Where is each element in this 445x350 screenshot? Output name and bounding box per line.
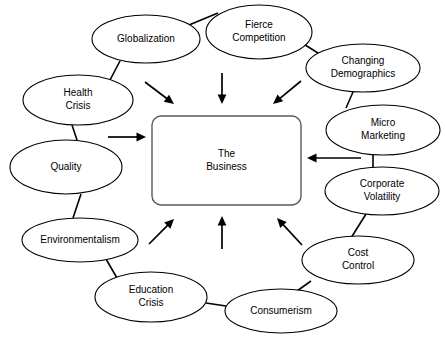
flow-arrow [218,216,227,249]
connector-line [351,214,366,238]
force-node-label: Education [129,284,173,295]
arrow-head-icon [164,95,174,104]
force-node-label: Environmentalism [40,234,119,245]
force-node-globalization[interactable]: Globalization [92,15,200,63]
connector-line [106,259,117,278]
force-node-label: Consumerism [250,305,312,316]
arrow-head-icon [218,95,227,105]
flow-arrow [145,82,174,104]
force-node-label: Corporate [360,178,405,189]
arrow-head-icon [307,154,317,163]
arrow-shaft [145,82,168,100]
force-node-changing-demographics[interactable]: ChangingDemographics [306,44,420,92]
flow-arrow [218,73,227,104]
arrow-head-icon [218,216,227,226]
force-node-label: Marketing [361,130,405,141]
force-node-label: Control [342,260,374,271]
center-node-group[interactable]: TheBusiness [152,116,301,205]
connector-line [297,281,311,291]
arrow-head-icon [137,133,147,142]
flow-arrow [149,219,174,244]
connector-line [110,61,120,80]
force-node-education-crisis[interactable]: EducationCrisis [95,272,207,322]
force-node-micro-marketing[interactable]: MicroMarketing [326,105,440,155]
force-node-label: Volatility [364,191,401,202]
center-node-label: The [218,148,236,159]
force-node-label: Changing [342,55,385,66]
flow-arrow [307,154,361,163]
diagram-canvas: TheBusiness GlobalizationFierceCompetiti… [0,0,445,350]
flow-arrow [277,218,302,245]
flow-arrow [273,81,301,104]
force-node-label: Cost [348,247,369,258]
force-node-corporate-volatility[interactable]: CorporateVolatility [325,167,439,215]
business-environment-diagram: TheBusiness GlobalizationFierceCompetiti… [0,0,445,350]
arrow-shaft [149,224,169,244]
force-node-cost-control[interactable]: CostControl [302,236,414,284]
arrow-shaft [278,81,301,100]
connector-line [73,194,81,218]
force-node-label: Competition [232,32,285,43]
force-node-quality[interactable]: Quality [10,140,122,194]
force-node-label: Demographics [331,68,395,79]
force-node-label: Micro [371,117,396,128]
force-node-label: Fierce [245,19,273,30]
force-node-label: Crisis [139,297,164,308]
force-node-consumerism[interactable]: Consumerism [225,289,337,333]
arrow-shaft [282,223,302,245]
center-node-the-business[interactable]: TheBusiness [152,116,301,205]
flow-arrow [108,133,146,142]
force-node-label: Quality [50,161,81,172]
connector-line [206,303,226,306]
force-node-environmentalism[interactable]: Environmentalism [22,218,138,262]
force-node-health-crisis[interactable]: HealthCrisis [23,75,133,125]
connector-line [346,92,353,108]
connector-line [72,125,77,140]
force-node-label: Health [64,87,93,98]
force-node-label: Crisis [66,100,91,111]
force-node-fierce-competition[interactable]: FierceCompetition [206,5,312,59]
center-node-label: Business [206,161,247,172]
force-node-label: Globalization [117,33,175,44]
